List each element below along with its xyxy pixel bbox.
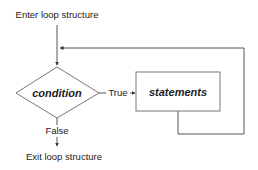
true-label: True (108, 87, 127, 98)
exit-label: Exit loop structure (26, 151, 102, 162)
statements-label: statements (149, 86, 207, 98)
condition-label: condition (32, 87, 82, 99)
flowchart: Enter loop structure condition True stat… (0, 0, 258, 170)
enter-label: Enter loop structure (16, 9, 99, 20)
false-label: False (45, 125, 68, 136)
